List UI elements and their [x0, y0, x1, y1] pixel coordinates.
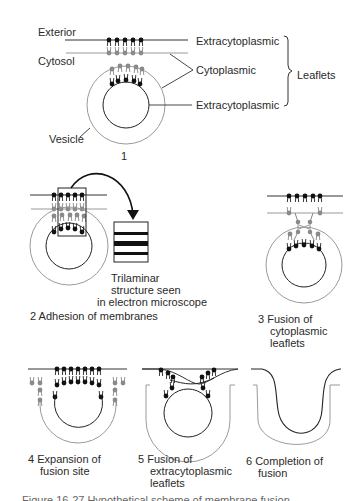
caption-panel-3-line1: 3 Fusion of — [258, 313, 327, 325]
label-cytosol: Cytosol — [38, 55, 75, 67]
label-vesicle: Vesicle — [49, 133, 84, 145]
label-extracytoplasmic-top: Extracytoplasmic — [196, 35, 279, 47]
caption-panel-3-line3: leaflets — [258, 337, 327, 349]
panel-3 — [266, 194, 343, 303]
trilaminar-line3: in electron microscope — [97, 296, 217, 308]
trilaminar-callout: Trilaminar structure seen in electron mi… — [97, 272, 217, 308]
caption-panel-6-line1: 6 Completion of — [246, 455, 323, 467]
panel-6 — [251, 369, 341, 444]
trilaminar-line1: Trilaminar — [97, 272, 217, 284]
caption-panel-5-line1: 5 Fusion of — [138, 453, 232, 465]
figure-caption: Figure 16-27 Hypothetical scheme of memb… — [22, 494, 290, 501]
panel-4 — [28, 367, 127, 443]
caption-panel-5: 5 Fusion of extracytoplasmic leaflets — [138, 453, 232, 489]
caption-panel-2: 2 Adhesion of membranes — [30, 310, 158, 322]
label-exterior: Exterior — [38, 26, 76, 38]
caption-panel-4-line1: 4 Expansion of — [28, 453, 101, 465]
panel-1 — [65, 36, 292, 144]
caption-panel-3-line2: cytoplasmic — [258, 325, 327, 337]
caption-panel-5-line3: leaflets — [138, 477, 232, 489]
caption-panel-4-line2: fusion site — [28, 465, 101, 477]
caption-panel-4: 4 Expansion of fusion site — [28, 453, 101, 477]
caption-panel-5-line2: extracytoplasmic — [138, 465, 232, 477]
label-extracytoplasmic-bottom: Extracytoplasmic — [196, 99, 279, 111]
label-cytoplasmic: Cytoplasmic — [196, 64, 256, 76]
panel-2 — [30, 174, 148, 285]
panel-1-number: 1 — [121, 150, 127, 162]
panel-5 — [142, 368, 238, 462]
caption-panel-6: 6 Completion of fusion — [246, 455, 323, 479]
label-leaflets: Leaflets — [297, 69, 336, 81]
caption-panel-3: 3 Fusion of cytoplasmic leaflets — [258, 313, 327, 349]
trilaminar-line2: structure seen — [97, 284, 217, 296]
caption-panel-6-line2: fusion — [246, 467, 323, 479]
